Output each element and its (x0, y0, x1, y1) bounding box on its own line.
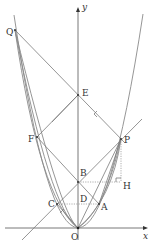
label-F: F (28, 134, 34, 144)
label-O: O (71, 232, 78, 242)
point-O (77, 227, 80, 230)
label-D: D (80, 194, 87, 204)
parabola-inner-1 (15, 30, 78, 228)
x-axis-arrow-icon (143, 226, 148, 230)
x-axis-label: x (143, 231, 148, 241)
point-B (77, 181, 79, 183)
y-axis-label: y (81, 2, 88, 12)
parabola-inner-2 (15, 30, 121, 228)
label-P: P (124, 135, 130, 145)
line-QP (15, 30, 125, 143)
line-PA (99, 139, 121, 204)
point-C (56, 203, 58, 205)
label-Q: Q (6, 27, 13, 37)
point-E (77, 94, 79, 96)
label-B: B (80, 168, 87, 178)
parabola-diagram: y x O Q E F P B H D C A (0, 0, 153, 244)
y-axis-arrow-icon (76, 7, 80, 12)
point-A (98, 203, 100, 205)
point-Q (14, 29, 16, 31)
label-C: C (48, 199, 55, 209)
right-angle-H (116, 178, 121, 182)
label-E: E (82, 88, 89, 98)
line-PO (78, 139, 121, 228)
point-F (36, 136, 38, 138)
label-A: A (100, 202, 108, 212)
line-E-ext (52, 95, 78, 122)
label-H: H (123, 181, 131, 191)
point-P (120, 138, 122, 140)
line-CO (57, 204, 78, 228)
parabola-inner-3 (15, 30, 121, 228)
parabola-outer (14, 14, 143, 228)
